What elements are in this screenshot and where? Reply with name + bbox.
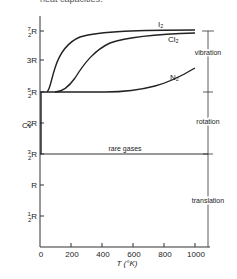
translation-label: translation [192, 197, 224, 204]
ytick-R: R [31, 181, 37, 190]
svg-text:1000: 1000 [187, 250, 205, 259]
svg-text:200: 200 [65, 250, 79, 259]
x-axis-label: T (°K) [117, 259, 138, 268]
heat-capacity-chart: 72R 3R 52R 2R 32R R 12R 0 200 400 600 80… [0, 0, 237, 279]
ytick-1-2R: 12R [28, 211, 38, 223]
i2-label: I₂ [158, 20, 163, 29]
n2-label: N₂ [170, 73, 179, 82]
x-tick-labels: 0 200 400 600 800 1000 [39, 250, 206, 259]
y-axis-label: Cv [22, 121, 32, 130]
svg-text:600: 600 [127, 250, 141, 259]
svg-text:0: 0 [39, 250, 44, 259]
rotation-label: rotation [196, 118, 219, 125]
ytick-7-2R: 72R [28, 26, 38, 38]
ytick-3R: 3R [27, 56, 37, 65]
svg-text:400: 400 [96, 250, 110, 259]
cl2-label: Cl₂ [168, 35, 179, 44]
ytick-3-2R: 32R [28, 149, 38, 161]
vibration-label: vibration [195, 49, 222, 56]
rare-gases-label: rare gases [108, 145, 142, 153]
x-ticks [71, 243, 195, 247]
degree-of-freedom-bracket [202, 31, 214, 247]
ytick-5-2R: 52R [28, 87, 38, 99]
axes [40, 16, 210, 247]
svg-text:800: 800 [158, 250, 172, 259]
